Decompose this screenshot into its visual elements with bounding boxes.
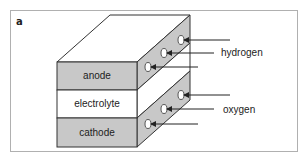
electrolyte-label: electrolyte: [74, 98, 120, 109]
hydrogen-label: hydrogen: [221, 47, 263, 58]
inlet-hole-icon: [161, 105, 167, 114]
anode-label: anode: [83, 70, 111, 81]
cathode-label: cathode: [79, 127, 115, 138]
fuel-cell-diagram: a anode electrolyte cathode hydrogen oxy…: [0, 0, 303, 160]
oxygen-label: oxygen: [223, 104, 255, 115]
inlet-hole-icon: [145, 63, 151, 72]
inlet-hole-icon: [145, 120, 151, 129]
inlet-hole-icon: [178, 91, 184, 100]
inlet-hole-icon: [178, 36, 184, 45]
inlet-hole-icon: [161, 49, 167, 58]
panel-label: a: [16, 16, 23, 27]
